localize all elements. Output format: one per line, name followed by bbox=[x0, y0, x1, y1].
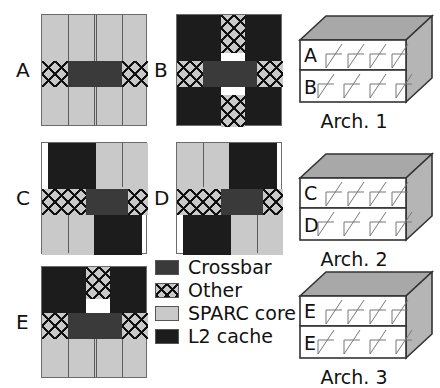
panel-c-l2-bottomright bbox=[94, 215, 142, 255]
floorplan-panel-e bbox=[41, 266, 147, 378]
floorplan-panel-c bbox=[41, 142, 147, 254]
panel-d-other-left bbox=[177, 189, 221, 215]
panel-e-divider-2 bbox=[94, 339, 95, 377]
panel-b-other-right bbox=[257, 61, 283, 87]
arch-block-1: A B Arch. 1 bbox=[296, 10, 440, 130]
panel-b-gap-bottom bbox=[221, 87, 245, 95]
panel-e-gap bbox=[86, 299, 110, 313]
panel-d-crossbar bbox=[221, 189, 263, 215]
panel-b-crossbar bbox=[203, 61, 257, 87]
floorplan-panel-a bbox=[41, 14, 147, 126]
panel-c-divider-bottom bbox=[68, 215, 69, 253]
panel-label-c: C bbox=[16, 188, 30, 208]
panel-c-other-right bbox=[128, 189, 148, 215]
panel-e-other-top bbox=[86, 267, 110, 299]
arch-2-bottom-layer-label: D bbox=[304, 216, 319, 235]
panel-d-l2-bottomleft bbox=[183, 215, 231, 255]
panel-e-other-right bbox=[122, 313, 148, 339]
legend-row-sparc-core: SPARC core bbox=[155, 304, 296, 323]
panel-e-other-left bbox=[42, 313, 68, 339]
legend-swatch-l2-cache bbox=[155, 329, 179, 344]
panel-a-other-left bbox=[42, 61, 68, 87]
arch-2-top-layer-label: C bbox=[304, 184, 317, 203]
arch-1-top-layer-label: A bbox=[304, 46, 317, 65]
panel-a-crossbar bbox=[68, 61, 122, 87]
panel-e-divider-3 bbox=[122, 339, 123, 377]
legend-label-sparc-core: SPARC core bbox=[188, 304, 296, 323]
panel-e-divider-1 bbox=[68, 339, 69, 377]
floorplan-panel-b bbox=[176, 14, 282, 126]
arch-3-svg bbox=[296, 266, 440, 366]
panel-e-divider-2b bbox=[96, 339, 97, 377]
arch-block-3: E E Arch. 3 bbox=[296, 266, 440, 386]
panel-c-other-left bbox=[42, 189, 86, 215]
panel-b-other-left bbox=[177, 61, 203, 87]
panel-c-divider-top bbox=[122, 143, 123, 187]
arch-3-bottom-layer-label: E bbox=[304, 334, 316, 353]
panel-d-divider-top bbox=[203, 143, 204, 187]
floorplan-panel-d bbox=[176, 142, 282, 254]
legend-swatch-sparc-core bbox=[155, 306, 179, 321]
panel-c-crossbar bbox=[86, 189, 128, 215]
legend-row-l2-cache: L2 cache bbox=[155, 327, 273, 346]
legend-label-other: Other bbox=[188, 281, 242, 300]
legend: Crossbar Other SPARC core L2 cache bbox=[155, 258, 305, 350]
arch-block-2: C D Arch. 2 bbox=[296, 148, 440, 268]
legend-row-crossbar: Crossbar bbox=[155, 258, 272, 277]
panel-d-other-right bbox=[263, 189, 283, 215]
arch-1-svg bbox=[296, 10, 440, 110]
legend-swatch-other bbox=[155, 283, 179, 298]
panel-label-a: A bbox=[16, 60, 30, 80]
panel-b-other-bottom bbox=[221, 95, 245, 127]
panel-c-l2-topleft bbox=[48, 143, 96, 189]
panel-d-l2-topright bbox=[229, 143, 277, 189]
panel-label-b: B bbox=[154, 60, 168, 80]
legend-row-other: Other bbox=[155, 281, 242, 300]
legend-label-crossbar: Crossbar bbox=[188, 258, 272, 277]
panel-e-crossbar bbox=[68, 313, 122, 339]
panel-a-other-right bbox=[122, 61, 148, 87]
panel-d-divider-bottom bbox=[257, 215, 258, 253]
legend-swatch-crossbar bbox=[155, 260, 179, 275]
legend-label-l2-cache: L2 cache bbox=[188, 327, 273, 346]
arch-1-caption: Arch. 1 bbox=[282, 110, 426, 132]
panel-b-other-top bbox=[221, 15, 245, 53]
panel-label-d: D bbox=[154, 188, 169, 208]
panel-b-gap-top bbox=[221, 53, 245, 61]
panel-label-e: E bbox=[16, 312, 29, 332]
arch-3-top-layer-label: E bbox=[304, 302, 316, 321]
arch-3-caption: Arch. 3 bbox=[282, 366, 426, 388]
arch-1-bottom-layer-label: B bbox=[304, 78, 317, 97]
